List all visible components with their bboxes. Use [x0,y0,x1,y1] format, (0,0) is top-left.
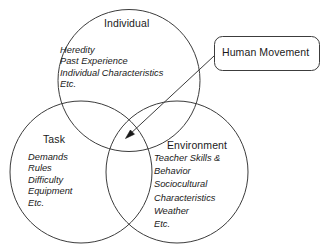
circle-environment [106,101,248,243]
callout-leader-line [129,56,215,136]
circle-individual [58,10,200,152]
venn-diagram: Individual Heredity Past Experience Indi… [0,0,331,247]
callout-box [215,37,320,71]
circle-task [10,101,152,243]
venn-diagram-shapes [0,0,331,247]
